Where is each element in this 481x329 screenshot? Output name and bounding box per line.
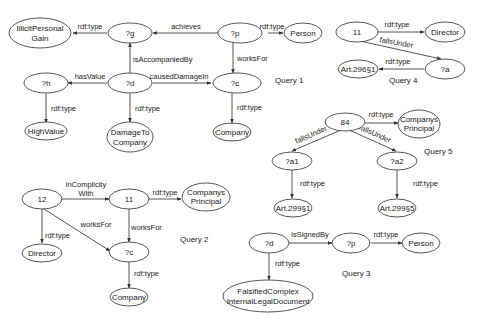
edge-q2-12-rdftype-director: rdf:type <box>42 209 70 243</box>
node-label: HighValue <box>28 127 65 136</box>
node-q1-company: Company <box>213 123 251 141</box>
edge-h-rdftype-highvalue: rdf:type <box>46 93 76 123</box>
query-3-label: Query 3 <box>342 269 371 278</box>
node-label: Company <box>112 293 146 302</box>
node-q3-p: ?p <box>332 233 370 253</box>
node-label: ?h <box>42 79 51 88</box>
node-q3-person: Person <box>402 233 440 253</box>
edge-label: rdf:type <box>385 57 410 66</box>
node-label: Companys <box>400 115 438 124</box>
node-label: Company <box>113 138 147 147</box>
edge-label: rdf:type <box>134 269 159 278</box>
node-label: ?a1 <box>285 157 299 166</box>
edge-label: With <box>79 189 94 198</box>
edge-p-rdftype-person: rdf:type <box>259 22 284 33</box>
node-label: 11 <box>353 28 362 37</box>
node-label: Art.296§1 <box>341 65 376 74</box>
edge-label: rdf:type <box>51 104 76 113</box>
query-2-label: Query 2 <box>180 235 209 244</box>
edge-q3-d-issignedby-p: isSignedBy <box>289 230 332 243</box>
node-label: DamageTo <box>111 128 150 137</box>
edge-q3-d-rdftype-doc: rdf:type <box>269 253 300 280</box>
node-q5-companys-principal: Companys Principal <box>398 110 440 138</box>
node-label: 11 <box>125 195 134 204</box>
edge-label: rdf:type <box>275 259 300 268</box>
edge-q3-p-rdftype-person: rdf:type <box>371 230 402 243</box>
node-label: Director <box>431 28 459 37</box>
edge-q2-12-incomplicitywith-11: inComplicity With <box>61 180 109 199</box>
node-q1-p: ?p <box>218 23 262 43</box>
node-label: Art.299§1 <box>276 204 311 213</box>
query-4-graph: rdf:type fallsUnder rdf:type 11 Director… <box>336 20 465 85</box>
diagram-canvas: rdf:type achieves rdf:type isAccompanied… <box>0 0 481 329</box>
node-q1-damage-to-company: DamageTo Company <box>107 122 153 152</box>
node-label: ?a2 <box>390 157 404 166</box>
edge-q2-11-rdftype-principal: rdf:type <box>148 188 181 199</box>
node-label: ?c <box>125 248 133 257</box>
node-q5-art299-1: Art.299§1 <box>274 199 312 217</box>
node-q2-director: Director <box>22 244 62 262</box>
node-label: Person <box>408 239 433 248</box>
edge-label: isAccompaniedBy <box>133 55 193 64</box>
node-q4-director: Director <box>425 22 465 42</box>
node-label: Companys <box>187 188 225 197</box>
edge-label: inComplicity <box>66 180 107 189</box>
node-q4-art296-1: Art.296§1 <box>338 60 378 78</box>
edge-q5-a2-rdftype-art5: rdf:type <box>397 170 438 198</box>
node-q5-a1: ?a1 <box>272 152 312 170</box>
query-1-graph: rdf:type achieves rdf:type isAccompanied… <box>9 18 322 152</box>
node-label: 84 <box>341 118 350 127</box>
edge-g-rdftype-illicit: rdf:type <box>73 22 107 33</box>
node-q3-d: ?d <box>249 233 289 253</box>
edge-label: isSignedBy <box>291 230 329 239</box>
node-q1-d: ?d <box>108 73 152 93</box>
node-q1-g: ?g <box>108 23 152 43</box>
node-label: 12 <box>38 195 47 204</box>
node-label: Principal <box>404 124 435 133</box>
edge-q4-a-rdftype-art: rdf:type <box>379 57 424 69</box>
node-q1-h: ?h <box>24 73 68 93</box>
node-label: ?p <box>231 29 240 38</box>
node-label: IllicitPersonal <box>16 24 63 33</box>
node-label: Art.299§5 <box>380 204 415 213</box>
node-label: FalsifiedComplex <box>237 287 298 296</box>
edge-label: rdf:type <box>152 188 177 197</box>
node-q4-a: ?a <box>425 59 465 79</box>
node-label: ?g <box>126 29 135 38</box>
node-label: Director <box>28 249 56 258</box>
edge-label: rdf:type <box>77 22 102 31</box>
edge-label: rdf:type <box>237 103 262 112</box>
node-label: ?c <box>231 79 239 88</box>
node-q2-11: 11 <box>109 189 149 209</box>
edge-d-hasvalue-h: hasValue <box>68 72 107 83</box>
node-label: Person <box>290 29 315 38</box>
edge-q2-12-worksfor-c: worksFor <box>44 209 112 251</box>
query-3-graph: isSignedBy rdf:type rdf:type ?d ?p Perso… <box>223 230 440 312</box>
node-q2-company: Company <box>110 288 148 306</box>
node-label: ?p <box>347 239 356 248</box>
query-4-label: Query 4 <box>389 76 418 85</box>
edge-p-worksfor-c: worksFor <box>233 42 268 73</box>
node-q1-person: Person <box>284 23 322 43</box>
edge-label: rdf:type <box>45 231 70 240</box>
edge-label: rdf:type <box>413 179 438 188</box>
node-label: InternalLegalDocument <box>227 297 310 306</box>
edge-d-rdftype-damage: rdf:type <box>130 93 160 122</box>
node-q5-84: 84 <box>325 113 365 131</box>
node-q1-highvalue: HighValue <box>25 122 67 140</box>
edge-c-rdftype-company: rdf:type <box>232 93 262 123</box>
node-q2-companys-principal: Companys Principal <box>182 183 230 211</box>
edge-label: rdf:type <box>135 104 160 113</box>
edge-label: achieves <box>171 22 201 31</box>
edge-label: fallsUnder <box>379 35 414 50</box>
edge-d-isaccompaniedby-g: isAccompaniedBy <box>130 43 193 73</box>
query-2-graph: inComplicity With rdf:type rdf:type work… <box>22 180 230 306</box>
node-label: Gain <box>32 34 49 43</box>
node-label: ?d <box>265 239 274 248</box>
edge-q5-84-rdftype-principal: rdf:type <box>365 110 398 123</box>
node-q5-a2: ?a2 <box>377 152 417 170</box>
query-5-graph: rdf:type fallsUnder fallsUnder rdf:type … <box>272 110 453 217</box>
node-label: Principal <box>191 197 222 206</box>
edge-q5-a1-rdftype-art1: rdf:type <box>292 170 325 198</box>
node-q3-falsified-document: FalsifiedComplex InternalLegalDocument <box>223 280 313 312</box>
